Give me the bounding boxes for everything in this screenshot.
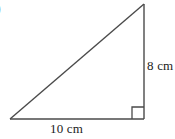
geometry-figure: ) 8 cm 10 cm — [0, 0, 175, 139]
hypotenuse-line — [10, 4, 144, 119]
base-leg-label: 10 cm — [50, 122, 83, 136]
right-angle-marker-icon — [132, 107, 144, 119]
vertical-leg-label: 8 cm — [147, 59, 173, 73]
